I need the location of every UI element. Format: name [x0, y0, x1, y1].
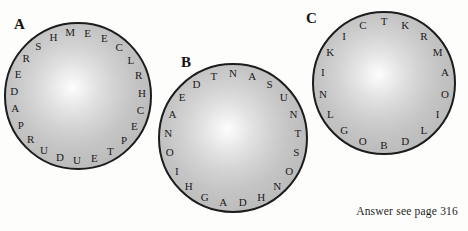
- ring-letter-a-17: A: [11, 103, 19, 114]
- ring-letter-c-3: M: [433, 47, 443, 58]
- ring-letter-b-20: T: [210, 70, 217, 81]
- ring-letter-a-11: E: [91, 152, 98, 163]
- ring-letter-a-7: C: [137, 104, 144, 115]
- ring-letter-b-1: A: [248, 70, 256, 81]
- letter-ring-c: TKRMAOILDBOGLNIKIC: [314, 13, 454, 153]
- ring-letter-c-17: C: [359, 19, 366, 30]
- ring-letter-c-0: T: [381, 16, 388, 27]
- ring-letter-c-1: K: [401, 19, 409, 30]
- letter-disc-c: TKRMAOILDBOGLNIKIC: [312, 11, 456, 155]
- ring-letter-b-2: S: [267, 79, 273, 90]
- ring-letter-c-13: N: [319, 88, 327, 99]
- circle-label-b: B: [181, 55, 191, 70]
- ring-letter-a-4: L: [127, 54, 134, 65]
- ring-letter-b-19: D: [192, 79, 200, 90]
- ring-letter-b-4: N: [290, 109, 298, 120]
- ring-letter-c-7: L: [420, 125, 427, 136]
- ring-letter-b-5: T: [294, 128, 301, 139]
- ring-letter-b-14: I: [175, 165, 179, 176]
- ring-letter-a-15: R: [27, 134, 34, 145]
- answer-reference-note: Answer see page 316: [356, 205, 458, 217]
- ring-letter-a-22: H: [49, 31, 57, 42]
- ring-letter-b-9: H: [257, 191, 265, 202]
- letter-disc-b: NASUNTSONHDAGHIONAEDT: [158, 63, 308, 213]
- ring-letter-a-18: D: [10, 85, 18, 96]
- ring-letter-a-12: U: [73, 154, 81, 165]
- ring-letter-a-3: C: [115, 41, 122, 52]
- ring-letter-b-13: H: [185, 180, 193, 191]
- letter-ring-b: NASUNTSONHDAGHIONAEDT: [160, 65, 306, 211]
- ring-letter-a-2: E: [101, 32, 108, 43]
- ring-letter-c-5: O: [441, 88, 449, 99]
- ring-letter-c-12: L: [327, 109, 334, 120]
- ring-letter-c-8: D: [401, 136, 409, 147]
- ring-letter-b-0: N: [229, 68, 237, 79]
- ring-letter-b-18: E: [179, 92, 186, 103]
- ring-letter-b-17: A: [169, 109, 177, 120]
- ring-letter-a-14: U: [40, 145, 48, 156]
- ring-letter-a-5: R: [135, 70, 142, 81]
- ring-letter-b-6: S: [293, 147, 299, 158]
- ring-letter-a-9: P: [121, 135, 127, 146]
- ring-letter-a-13: D: [56, 152, 64, 163]
- ring-letter-a-1: E: [84, 27, 91, 38]
- ring-letter-a-10: T: [107, 146, 114, 157]
- circle-label-c: C: [306, 11, 317, 26]
- puzzle-page: AMEECLRHCEPTEUDURPADERSHBNASUNTSONHDAGHI…: [0, 0, 468, 231]
- ring-letter-c-2: R: [420, 30, 427, 41]
- ring-letter-c-4: A: [441, 67, 449, 78]
- ring-letter-c-6: I: [436, 109, 440, 120]
- ring-letter-b-10: D: [239, 197, 247, 208]
- ring-letter-a-8: E: [131, 121, 138, 132]
- ring-letter-c-16: I: [342, 30, 346, 41]
- ring-letter-c-14: I: [321, 67, 325, 78]
- ring-letter-c-10: O: [359, 136, 367, 147]
- letter-disc-a: MEECLRHCEPTEUDURPADERSH: [4, 22, 152, 170]
- ring-letter-b-12: G: [201, 191, 209, 202]
- ring-letter-b-3: U: [280, 92, 288, 103]
- ring-letter-b-15: O: [166, 147, 174, 158]
- letter-ring-a: MEECLRHCEPTEUDURPADERSH: [6, 24, 150, 168]
- ring-letter-b-7: O: [285, 165, 293, 176]
- ring-letter-b-8: N: [273, 180, 281, 191]
- ring-letter-c-11: G: [340, 125, 348, 136]
- ring-letter-a-21: S: [35, 40, 41, 51]
- ring-letter-a-16: P: [18, 119, 24, 130]
- ring-letter-c-9: B: [380, 140, 387, 151]
- ring-letter-b-11: A: [219, 197, 227, 208]
- ring-letter-c-15: K: [326, 47, 334, 58]
- ring-letter-a-0: M: [65, 27, 75, 38]
- ring-letter-b-16: N: [164, 128, 172, 139]
- circle-label-a: A: [14, 17, 25, 32]
- ring-letter-a-19: E: [15, 68, 22, 79]
- ring-letter-a-20: R: [23, 53, 30, 64]
- ring-letter-a-6: H: [138, 87, 146, 98]
